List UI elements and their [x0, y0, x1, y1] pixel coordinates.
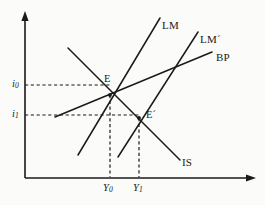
- y-tick-label-i0: i0: [12, 79, 19, 90]
- y-axis-arrowhead: [21, 11, 28, 21]
- point-marker-e: [108, 93, 112, 97]
- y-tick-label-i1: i1: [12, 109, 19, 120]
- x-tick-y1-symbol: Y: [133, 182, 139, 193]
- prime-mark-e: ´: [152, 109, 156, 120]
- x-tick-y1-subscript: 1: [139, 185, 143, 194]
- point-label-e-text: E: [104, 73, 110, 84]
- y-tick-i0-subscript: 0: [15, 81, 19, 90]
- point-label-e-prime: E´: [146, 110, 156, 121]
- curve-label-bp-text: BP: [216, 51, 230, 63]
- x-axis-arrowhead: [246, 174, 256, 181]
- is-lm-bp-diagram: LM LM´ BP IS E E´ i0 i1 Y0 Y1: [0, 0, 265, 205]
- curve-label-bp: BP: [216, 52, 230, 63]
- curve-label-is-text: IS: [182, 156, 192, 168]
- point-marker-e-prime: [137, 116, 141, 120]
- diagram-canvas: [0, 0, 265, 205]
- curve-label-lm-prime: LM´: [200, 34, 221, 45]
- x-tick-label-y0: Y0: [103, 183, 113, 194]
- x-tick-label-y1: Y1: [133, 183, 143, 194]
- guide-lines-group: [25, 85, 140, 177]
- curve-label-lm: LM: [162, 20, 179, 31]
- prime-mark-lm: ´: [217, 33, 221, 45]
- curves-group: [55, 18, 212, 160]
- curve-label-lm-text: LM: [162, 19, 179, 31]
- y-tick-i1-subscript: 1: [15, 111, 19, 120]
- curve-label-lm-prime-text: LM: [200, 33, 217, 45]
- point-label-e: E: [104, 74, 110, 85]
- lm-curve: [78, 18, 160, 155]
- x-tick-y0-symbol: Y: [103, 182, 109, 193]
- curve-label-is: IS: [182, 157, 192, 168]
- x-tick-y0-subscript: 0: [109, 185, 113, 194]
